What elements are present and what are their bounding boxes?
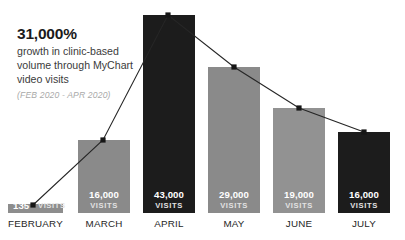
chart-annotation: 31,000% growth in clinic-based volume th… xyxy=(17,26,177,100)
bar-unit-april: VISITS xyxy=(143,202,195,210)
bar-february: 135VISITS xyxy=(8,204,63,213)
growth-headline: 31,000% xyxy=(17,26,177,42)
bar-value-july: 16,000 xyxy=(338,190,390,200)
growth-description-line-1: growth in clinic-based xyxy=(17,45,177,59)
bar-value-march: 16,000 xyxy=(78,190,130,200)
bar-unit-march: VISITS xyxy=(78,202,130,210)
bar-june: 19,000VISITS xyxy=(273,108,325,213)
bar-value-june: 19,000 xyxy=(273,190,325,200)
month-label-february: FEBRUARY xyxy=(0,219,71,229)
bar-value-may: 29,000 xyxy=(208,190,260,200)
bar-value-february: 135 xyxy=(13,201,29,211)
growth-chart: 31,000% growth in clinic-based volume th… xyxy=(0,0,405,240)
growth-description-line-2: volume through MyChart xyxy=(17,59,177,73)
bar-unit-may: VISITS xyxy=(208,202,260,210)
month-label-july: JULY xyxy=(330,219,398,229)
bar-may: 29,000VISITS xyxy=(208,67,260,213)
month-label-june: JUNE xyxy=(265,219,333,229)
growth-description-line-3: video visits xyxy=(17,73,177,87)
bar-march: 16,000VISITS xyxy=(78,140,130,213)
month-label-may: MAY xyxy=(200,219,268,229)
bar-value-april: 43,000 xyxy=(143,190,195,200)
bar-unit-june: VISITS xyxy=(273,202,325,210)
bar-july: 16,000VISITS xyxy=(338,132,390,213)
month-label-april: APRIL xyxy=(135,219,203,229)
growth-period: (FEB 2020 - APR 2020) xyxy=(17,90,177,100)
growth-description: growth in clinic-based volume through My… xyxy=(17,45,177,87)
month-label-march: MARCH xyxy=(70,219,138,229)
bar-unit-july: VISITS xyxy=(338,202,390,210)
bar-unit-february: VISITS xyxy=(38,202,66,210)
